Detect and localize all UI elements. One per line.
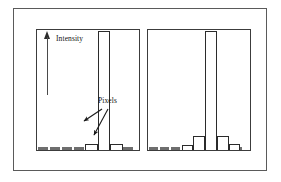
figure-root: Intensity Pixels xyxy=(0,0,281,182)
intensity-label: Intensity xyxy=(56,34,83,43)
plot-area-right xyxy=(148,30,250,150)
baseline-dash xyxy=(74,147,84,150)
baseline-dash xyxy=(123,147,133,150)
bar-shoulder-left xyxy=(85,144,98,150)
bar-outer-left xyxy=(182,145,193,150)
bar-outer-right xyxy=(229,144,240,150)
pixels-arrow-to-peak xyxy=(84,109,102,121)
bar-shoulder-right xyxy=(110,144,123,150)
baseline-dash xyxy=(171,147,180,150)
chart-panel-right xyxy=(147,29,251,151)
baseline-dash xyxy=(62,147,72,150)
baseline-dash xyxy=(160,147,169,150)
baseline-dash xyxy=(50,147,60,150)
bar-shoulder-left xyxy=(193,136,205,150)
bar-shoulder-right xyxy=(217,136,229,150)
pixels-callout-arrows xyxy=(78,104,124,144)
baseline-dash xyxy=(149,147,158,150)
arrow-shaft xyxy=(47,37,48,95)
bar-peak xyxy=(205,31,217,150)
intensity-axis-arrow xyxy=(42,31,54,95)
baseline-dash xyxy=(38,147,48,150)
pixels-arrow-svg xyxy=(78,104,124,144)
